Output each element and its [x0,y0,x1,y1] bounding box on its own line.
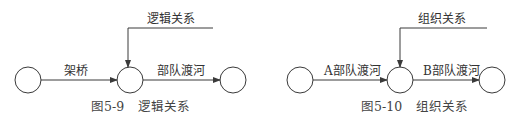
figure-5-10-graphic [287,28,505,93]
caption-number: 图5-9 [91,99,124,114]
edge-label-b-crossing: B部队渡河 [423,64,480,78]
caption-title-2: 组织关系 [416,99,468,114]
edge-label-bridge: 架桥 [64,64,88,78]
edge-label-crossing: 部队渡河 [157,64,205,78]
edge-label-a-crossing: A部队渡河 [324,64,381,78]
node-4 [287,67,313,93]
node-6 [479,67,505,93]
figure-caption-5-9: 图5-9逻辑关系 [91,100,190,114]
figure-5-9-graphic [15,28,246,93]
node-5 [387,67,413,93]
caption-number-2: 图5-10 [361,99,402,114]
node-1 [15,67,41,93]
top-relation-label: 逻辑关系 [147,12,195,26]
node-2 [117,67,143,93]
caption-title: 逻辑关系 [138,99,190,114]
figure-caption-5-10: 图5-10组织关系 [361,100,468,114]
top-relation-label-2: 组织关系 [418,12,466,26]
node-3 [220,67,246,93]
